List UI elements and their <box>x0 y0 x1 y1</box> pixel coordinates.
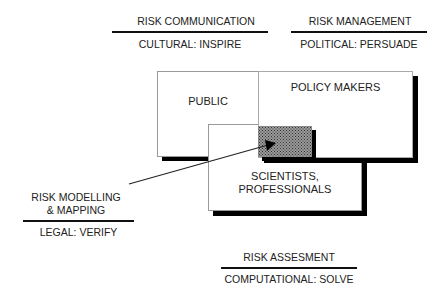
risk-modelling-heading-line2: & MAPPING <box>20 204 132 217</box>
risk-assessment-rule <box>221 267 357 269</box>
risk-modelling-sub: LEGAL: VERIFY <box>23 226 134 238</box>
risk-modelling-heading-line1: RISK MODELLING <box>20 191 132 204</box>
risk-assessment-sub: COMPUTATIONAL: SOLVE <box>215 273 363 285</box>
risk-assessment-heading: RISK ASSESMENT <box>221 251 357 263</box>
risk-modelling-rule <box>23 220 134 222</box>
